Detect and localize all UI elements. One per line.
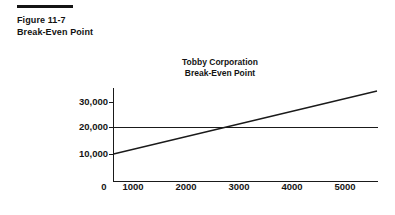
x-tick-label-2000: 2000 (163, 181, 209, 192)
x-tick-label-4000: 4000 (269, 181, 315, 192)
series-total-cost-line (114, 91, 378, 154)
x-tick-label-3000: 3000 (216, 181, 262, 192)
break-even-chart: Tobby Corporation Break-Even Point 30,00… (0, 0, 395, 215)
y-tick-label-30000: 30,000 (50, 96, 108, 107)
x-tick-label-1000: 1000 (110, 181, 156, 192)
x-axis-labels: 0 1000 2000 3000 4000 5000 (0, 181, 395, 201)
y-tick-label-10000: 10,000 (50, 148, 108, 159)
x-tick-label-5000: 5000 (322, 181, 368, 192)
y-tick-label-20000: 20,000 (50, 121, 108, 132)
